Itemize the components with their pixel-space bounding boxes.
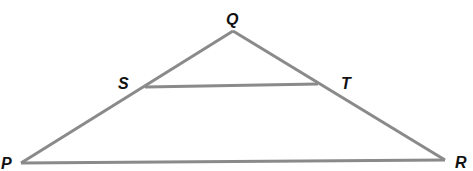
label-q: Q [226,11,239,28]
label-r: R [455,154,467,171]
label-s: S [118,75,129,92]
segment-pq [21,31,233,163]
label-t: T [341,75,352,92]
triangle-diagram: Q S T P R [0,0,473,171]
label-p: P [1,155,12,171]
segment-pr [21,160,445,163]
segment-qr [233,31,445,160]
segment-st [145,84,318,87]
